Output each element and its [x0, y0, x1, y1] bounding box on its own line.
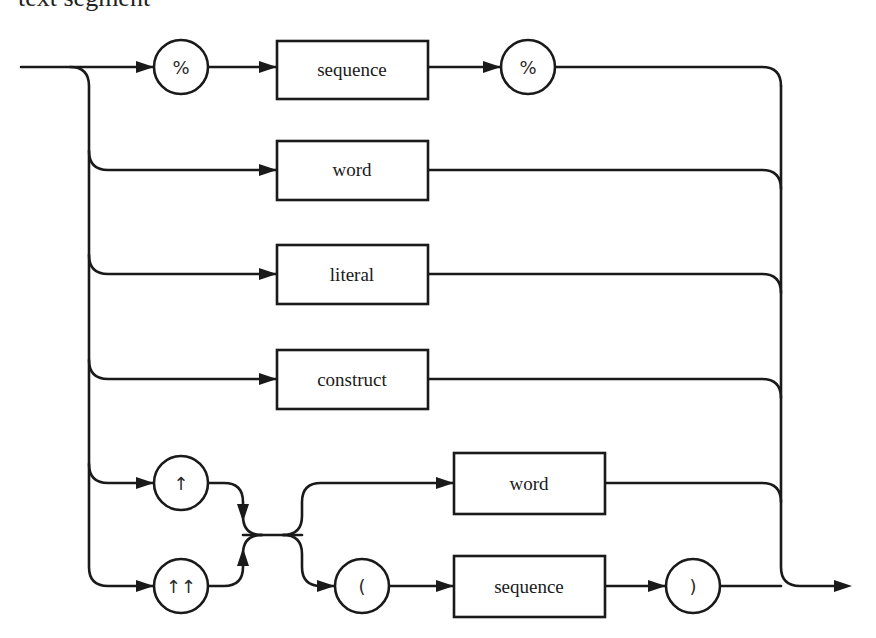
terminal-percent-close: %	[501, 40, 555, 94]
terminal-percent-open: %	[154, 40, 208, 94]
terminal-left-paren: (	[335, 559, 389, 613]
nonterminal-construct: construct	[277, 350, 428, 409]
arrowhead-icon	[237, 548, 249, 566]
arrowhead-icon	[436, 477, 454, 489]
node-label: sequence	[317, 59, 387, 80]
node-label: word	[509, 473, 549, 494]
branch-literal	[89, 255, 277, 274]
left-rail	[70, 67, 154, 586]
nonterminal-word: word	[277, 141, 428, 200]
node-label: literal	[330, 264, 374, 285]
branch-construct	[89, 360, 277, 379]
node-label: word	[332, 159, 372, 180]
syntax-diagram: % sequence % word literal construct ↑ ↑↑…	[0, 0, 876, 638]
up1-to-junction	[208, 483, 262, 535]
arrowhead-icon	[136, 477, 154, 489]
node-label: sequence	[494, 576, 564, 597]
terminal-up-arrow: ↑	[154, 456, 208, 510]
arrowhead-icon	[436, 580, 454, 592]
arrowhead-icon	[237, 504, 249, 522]
arrowhead-icon	[136, 580, 154, 592]
arrowhead-icon	[483, 61, 501, 73]
row2-exit	[428, 170, 781, 189]
split-to-lparen	[283, 535, 335, 586]
node-label: (	[358, 576, 365, 597]
nonterminal-sequence-paren: sequence	[454, 556, 605, 617]
exit-arrowhead-icon	[834, 580, 852, 592]
arrowhead-icon	[259, 373, 277, 385]
node-label: construct	[317, 369, 387, 390]
terminal-double-up-arrow: ↑↑	[154, 559, 208, 613]
terminal-right-paren: )	[666, 559, 720, 613]
arrowhead-icon	[648, 580, 666, 592]
row5-exit	[605, 483, 781, 502]
up-arrow-icon: ↑	[173, 473, 188, 494]
nonterminal-literal: literal	[277, 245, 428, 304]
node-label: )	[689, 576, 696, 597]
branch-word	[89, 151, 277, 170]
nonterminal-word-reference: word	[454, 453, 605, 514]
row1-exit	[555, 67, 781, 86]
arrowhead-icon	[259, 164, 277, 176]
node-label: %	[519, 57, 536, 78]
node-label: %	[172, 57, 189, 78]
arrowhead-icon	[136, 61, 154, 73]
row3-exit	[428, 274, 781, 293]
split-to-word	[283, 483, 454, 535]
up2-to-junction	[208, 535, 262, 586]
nonterminal-sequence: sequence	[277, 41, 428, 99]
arrowhead-icon	[317, 580, 335, 592]
arrowhead-icon	[259, 268, 277, 280]
right-rail	[781, 86, 845, 586]
row4-exit	[428, 379, 781, 398]
arrowhead-icon	[259, 61, 277, 73]
double-up-arrow-icon: ↑↑	[166, 576, 196, 597]
